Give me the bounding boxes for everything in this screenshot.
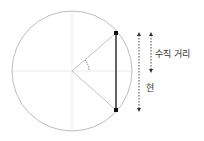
radius-upper xyxy=(72,33,116,71)
arrowhead-down-icon xyxy=(149,69,153,73)
perpendicular-distance-label: 수직 거리 xyxy=(155,49,190,59)
chord-endpoint-top xyxy=(114,31,118,35)
circle-chord-diagram: 수직 거리 현 xyxy=(0,0,204,141)
arrowhead-down-icon xyxy=(137,108,141,112)
arrowhead-up-icon xyxy=(137,32,141,36)
radius-lower xyxy=(72,71,116,110)
angle-arc xyxy=(85,60,89,71)
chord-label: 현 xyxy=(146,83,154,93)
chord-endpoint-bottom xyxy=(114,108,118,112)
arrowhead-up-icon xyxy=(149,32,153,36)
